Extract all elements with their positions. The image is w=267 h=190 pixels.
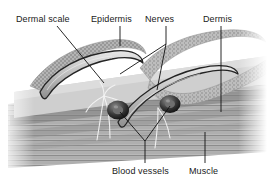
blood-vessel-right [160,95,181,113]
anatomy-figure: Dermal scale Epidermis Nerves Dermis Blo… [0,0,267,190]
label-blood-vessels: Blood vessels [112,166,169,176]
blood-vessel-left [107,101,129,120]
skin-cross-section-illustration [0,0,267,190]
label-dermis: Dermis [203,14,232,24]
label-epidermis: Epidermis [91,14,132,24]
label-muscle: Muscle [189,166,218,176]
label-nerves: Nerves [145,14,174,24]
label-dermal-scale: Dermal scale [16,14,70,24]
